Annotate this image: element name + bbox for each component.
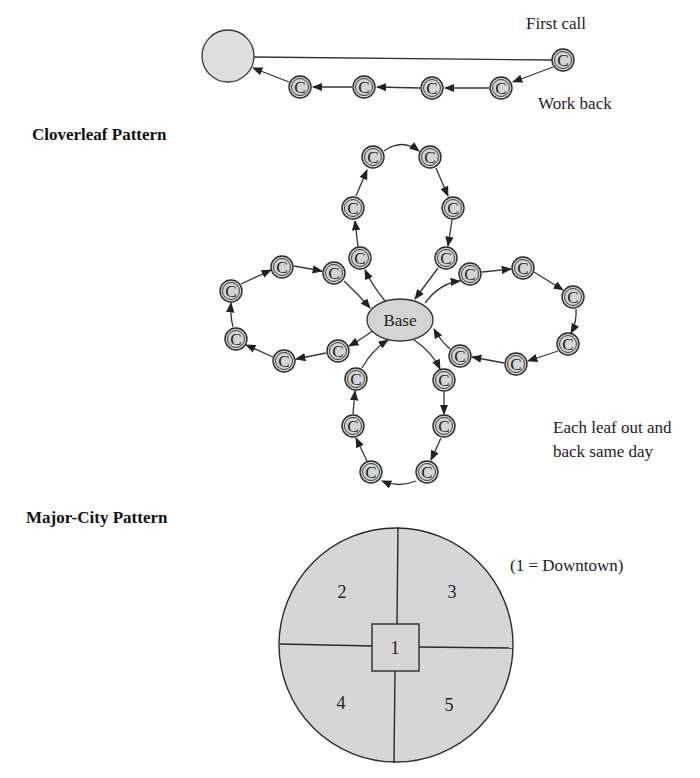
downtown-legend: (1 = Downtown)	[510, 556, 623, 576]
call-node: C	[362, 146, 384, 168]
call-node: C	[289, 76, 311, 98]
zone-1-label: 1	[391, 638, 400, 658]
diagram-canvas: C C C C C	[0, 0, 700, 778]
cloverleaf-diagram: Base C C C C C C C C C C C C C C C C C C…	[220, 145, 584, 485]
svg-text:C: C	[347, 199, 358, 218]
svg-text:C: C	[276, 258, 287, 277]
base-circle	[202, 30, 254, 82]
zone-2-label: 2	[338, 582, 347, 602]
divider-east	[419, 647, 513, 648]
svg-text:C: C	[438, 417, 449, 436]
svg-text:C: C	[365, 463, 376, 482]
call-node: C	[345, 368, 367, 390]
call-node: C	[557, 333, 579, 355]
outbound-line	[254, 57, 552, 60]
call-node: C	[342, 197, 364, 219]
svg-text:C: C	[426, 79, 437, 98]
svg-text:C: C	[495, 79, 506, 98]
leaf-top: C C C C C C	[342, 146, 464, 269]
zone-3-label: 3	[448, 582, 457, 602]
svg-text:C: C	[421, 463, 432, 482]
call-node: C	[323, 262, 345, 284]
major-city-diagram: 1 2 3 4 5	[279, 527, 513, 763]
work-back-route: C C C C C	[202, 30, 574, 99]
svg-text:C: C	[567, 288, 578, 307]
leaf-right: C C C C C C	[449, 257, 584, 375]
call-node: C	[433, 369, 455, 391]
svg-text:C: C	[350, 370, 361, 389]
base-label: Base	[383, 311, 416, 330]
call-node: C	[562, 286, 584, 308]
svg-text:C: C	[294, 78, 305, 97]
svg-text:C: C	[328, 264, 339, 283]
call-node: C	[459, 263, 481, 285]
call-node: C	[271, 256, 293, 278]
call-node: C	[220, 280, 242, 302]
call-node: C	[353, 76, 375, 98]
call-node: C	[225, 328, 247, 350]
svg-text:C: C	[438, 371, 449, 390]
call-node: C	[552, 49, 574, 71]
svg-text:C: C	[367, 148, 378, 167]
cloverleaf-title: Cloverleaf Pattern	[32, 125, 167, 145]
call-node: C	[435, 247, 457, 269]
call-node: C	[327, 340, 349, 362]
work-back-label: Work back	[538, 94, 612, 114]
major-city-title: Major-City Pattern	[26, 508, 167, 528]
leaf-left: C C C C C C	[220, 256, 349, 372]
call-node: C	[449, 345, 471, 367]
call-node: C	[416, 461, 438, 483]
divider-north	[397, 527, 398, 624]
cloverleaf-caption-line1: Each leaf out and	[553, 418, 671, 438]
first-call-label: First call	[526, 14, 586, 34]
call-node: C	[505, 353, 527, 375]
call-node: C	[433, 415, 455, 437]
svg-text:C: C	[562, 335, 573, 354]
svg-text:C: C	[557, 51, 568, 70]
cloverleaf-caption-line2: back same day	[553, 442, 653, 462]
svg-text:C: C	[447, 199, 458, 218]
svg-text:C: C	[347, 417, 358, 436]
divider-south	[394, 670, 395, 763]
svg-text:C: C	[354, 249, 365, 268]
leaf-bottom: C C C C C C	[342, 368, 455, 483]
call-node: C	[512, 257, 534, 279]
svg-text:C: C	[230, 330, 241, 349]
svg-text:C: C	[358, 78, 369, 97]
call-node: C	[360, 461, 382, 483]
svg-text:C: C	[454, 347, 465, 366]
call-node: C	[421, 77, 443, 99]
route-nodes: C C C C C	[289, 49, 574, 99]
svg-text:C: C	[440, 249, 451, 268]
call-node: C	[442, 197, 464, 219]
call-node: C	[342, 415, 364, 437]
svg-text:C: C	[225, 282, 236, 301]
zone-5-label: 5	[445, 695, 454, 715]
call-node: C	[273, 350, 295, 372]
call-node: C	[490, 77, 512, 99]
zone-4-label: 4	[337, 693, 346, 713]
svg-text:C: C	[510, 355, 521, 374]
svg-text:C: C	[424, 148, 435, 167]
call-node: C	[419, 146, 441, 168]
svg-text:C: C	[332, 342, 343, 361]
svg-text:C: C	[464, 265, 475, 284]
svg-text:C: C	[278, 352, 289, 371]
call-node: C	[349, 247, 371, 269]
svg-text:C: C	[517, 259, 528, 278]
